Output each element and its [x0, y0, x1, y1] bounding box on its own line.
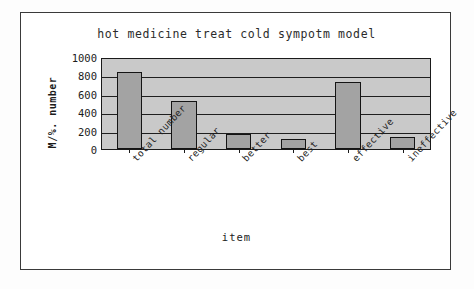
y-axis-tick-label: 600 [55, 90, 97, 100]
y-axis-tick-label: 0 [55, 145, 97, 155]
y-axis-tick-label: 1000 [55, 53, 97, 63]
bar[interactable] [117, 72, 142, 149]
chart-frame: hot medicine treat cold sympotm model M/… [20, 12, 451, 270]
y-axis-tick-labels: 10008006004002000 [55, 58, 97, 150]
bar-slot [266, 59, 321, 149]
chart-title: hot medicine treat cold sympotm model [21, 27, 452, 41]
bar-slot [321, 59, 376, 149]
x-axis-category-labels: total numberregularbetterbesteffectivein… [101, 150, 431, 230]
y-axis-tick-label: 800 [55, 71, 97, 81]
x-axis-title: item [21, 231, 452, 243]
y-axis-tick-label: 400 [55, 108, 97, 118]
y-axis-tick-label: 200 [55, 127, 97, 137]
screenshot-page: hot medicine treat cold sympotm model M/… [0, 0, 474, 289]
bar[interactable] [335, 82, 360, 149]
